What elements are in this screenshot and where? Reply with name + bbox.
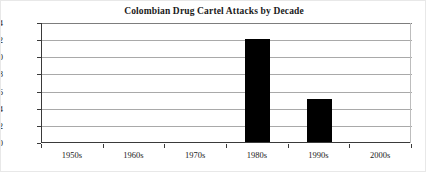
plot-right-edge xyxy=(410,23,411,143)
gridline xyxy=(42,126,412,127)
x-axis-tick-label: 1990s xyxy=(308,150,328,160)
x-axis-tick-label: 1980s xyxy=(247,150,267,160)
y-axis-tick-label: 2 xyxy=(0,121,3,131)
bar-1980s xyxy=(245,39,270,142)
bar-chart-figure: Colombian Drug Cartel Attacks by Decade … xyxy=(0,0,426,172)
y-axis-tick-mark xyxy=(37,40,41,41)
x-axis-tick-mark xyxy=(349,144,350,148)
y-axis-tick-label: 6 xyxy=(0,87,3,97)
gridline xyxy=(42,23,412,24)
y-axis-tick-label: 0 xyxy=(0,138,3,148)
y-axis-tick-mark xyxy=(37,109,41,110)
x-axis-tick-mark xyxy=(411,144,412,148)
y-axis-tick-mark xyxy=(37,92,41,93)
y-axis-tick-mark xyxy=(37,57,41,58)
y-axis-tick-label: 4 xyxy=(0,104,3,114)
x-axis-tick-label: 1970s xyxy=(185,150,205,160)
x-axis-tick-mark xyxy=(103,144,104,148)
x-axis-tick-mark xyxy=(288,144,289,148)
y-axis-tick-label: 12 xyxy=(0,35,3,45)
y-axis-tick-label: 8 xyxy=(0,69,3,79)
y-axis-tick-label: 10 xyxy=(0,52,3,62)
y-axis-tick-mark xyxy=(37,23,41,24)
bar-1990s xyxy=(307,99,332,142)
plot-area xyxy=(41,23,411,143)
y-axis-tick-label: 14 xyxy=(0,18,3,28)
x-axis-tick-mark xyxy=(226,144,227,148)
x-axis-tick-mark xyxy=(164,144,165,148)
gridline xyxy=(42,40,412,41)
y-axis-tick-mark xyxy=(37,126,41,127)
y-axis-tick-mark xyxy=(37,74,41,75)
x-axis-tick-mark xyxy=(41,144,42,148)
gridline xyxy=(42,92,412,93)
gridline xyxy=(42,57,412,58)
chart-title: Colombian Drug Cartel Attacks by Decade xyxy=(1,6,426,16)
x-axis-tick-label: 1950s xyxy=(62,150,82,160)
x-axis-tick-label: 2000s xyxy=(370,150,390,160)
gridline xyxy=(42,74,412,75)
gridline xyxy=(42,109,412,110)
x-axis-tick-label: 1960s xyxy=(123,150,143,160)
